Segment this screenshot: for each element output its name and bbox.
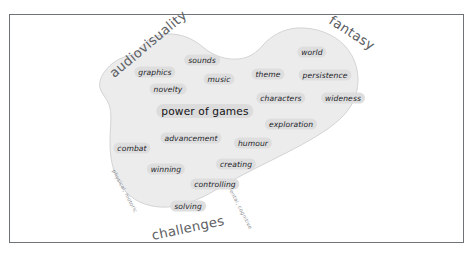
- cloud-shape-svg: [0, 0, 473, 254]
- concept-cloud-diagram: audiovisuality fantasy challenges physic…: [0, 0, 473, 254]
- term-pill-theme: theme: [251, 69, 284, 80]
- term-pill-novelty: novelty: [150, 84, 187, 95]
- term-pill-humour: humour: [234, 138, 272, 149]
- term-pill-advancement: advancement: [160, 133, 221, 144]
- term-pill-wideness: wideness: [321, 93, 365, 104]
- term-pill-creating: creating: [216, 159, 256, 170]
- term-pill-solving: solving: [170, 201, 206, 212]
- term-pill-controlling: controlling: [190, 179, 239, 190]
- term-pill-graphics: graphics: [134, 67, 175, 78]
- term-pill-exploration: exploration: [265, 119, 317, 130]
- term-pill-combat: combat: [113, 143, 150, 154]
- term-pill-persistence: persistence: [298, 70, 351, 81]
- term-pill-sounds: sounds: [184, 55, 220, 66]
- term-pill-characters: characters: [256, 93, 305, 104]
- figure-root: audiovisuality fantasy challenges physic…: [0, 0, 473, 254]
- center-label-power-of-games: power of games: [156, 104, 253, 118]
- term-pill-winning: winning: [147, 164, 185, 175]
- term-pill-music: music: [204, 74, 235, 85]
- term-pill-world: world: [297, 47, 326, 58]
